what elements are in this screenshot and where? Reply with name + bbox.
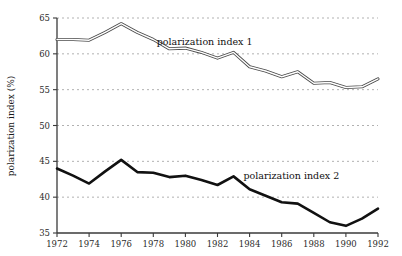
y-tick-label-40: 40 [39, 192, 50, 202]
y-tick-label-50: 50 [39, 121, 50, 131]
x-tick-label-1974: 1974 [78, 239, 100, 249]
y-tick-label-35: 35 [39, 228, 50, 238]
x-tick-label-1978: 1978 [142, 239, 164, 249]
y-tick-label-65: 65 [39, 13, 50, 23]
x-axis-tick-labels-group: 1972197419761978198019821984198619881990… [46, 239, 389, 249]
y-tick-label-60: 60 [39, 49, 50, 59]
x-tick-label-1988: 1988 [303, 239, 325, 249]
y-tick-label-45: 45 [39, 156, 50, 166]
y-tick-label-55: 55 [39, 85, 50, 95]
x-tick-label-1990: 1990 [335, 239, 357, 249]
x-tick-label-1976: 1976 [110, 239, 132, 249]
chart-container: 65605550454035 1972197419761978198019821… [0, 0, 402, 256]
x-tick-label-1992: 1992 [367, 239, 389, 249]
x-tick-label-1986: 1986 [271, 239, 293, 249]
y-axis-title: polarization index (%) [6, 76, 16, 177]
x-tick-label-1984: 1984 [239, 239, 261, 249]
x-tick-label-1980: 1980 [175, 239, 197, 249]
series-label-index-1: polarization index 1 [157, 36, 253, 47]
series-label-index-2: polarization index 2 [243, 170, 339, 181]
x-tick-label-1972: 1972 [46, 239, 68, 249]
x-tick-label-1982: 1982 [207, 239, 229, 249]
polarization-index-line-chart: 65605550454035 1972197419761978198019821… [0, 0, 402, 256]
